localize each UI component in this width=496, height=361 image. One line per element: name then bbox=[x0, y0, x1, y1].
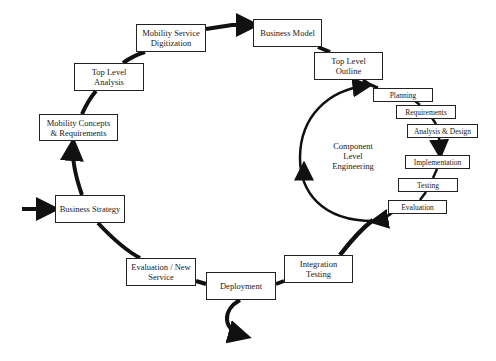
arrow-digitization-to-model bbox=[206, 25, 252, 29]
box-mobility-concepts: Mobility Concepts& Requirements bbox=[39, 114, 118, 141]
box-business-strategy: Business Strategy bbox=[55, 195, 125, 223]
box-analysis-design: Analysis & Design bbox=[407, 124, 478, 138]
box-testing: Testing bbox=[398, 178, 458, 192]
box-evaluation-new-service: Evaluation / NewService bbox=[126, 258, 196, 286]
component-level-engineering-label: Component Level Engineering bbox=[318, 141, 388, 171]
box-implementation: Implementation bbox=[405, 155, 470, 169]
box-deployment: Deployment bbox=[206, 272, 276, 300]
box-evaluation: Evaluation bbox=[388, 200, 447, 214]
arrow-design-to-implementation bbox=[439, 138, 440, 152]
arrow-strategy-to-concepts bbox=[73, 145, 82, 195]
box-planning: Planning bbox=[373, 88, 433, 102]
box-top-level-analysis: Top LevelAnalysis bbox=[74, 63, 144, 91]
box-top-level-outline: Top LevelOutline bbox=[314, 52, 383, 80]
box-integration-testing: IntegrationTesting bbox=[284, 255, 353, 283]
box-requirements: Requirements bbox=[396, 105, 456, 119]
box-mobility-service-digitization: Mobility ServiceDigitization bbox=[136, 24, 206, 52]
arrow-evaluation-loop bbox=[376, 213, 392, 221]
box-business-model: Business Model bbox=[253, 19, 322, 47]
exit-arrow bbox=[227, 300, 244, 336]
